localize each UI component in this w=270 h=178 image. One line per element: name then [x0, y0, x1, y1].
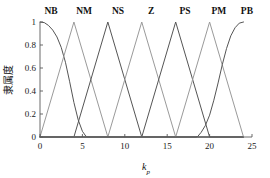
set-label-pb: PB: [241, 6, 254, 16]
fuzzy-set-labels: NBNMNSZPSPMPB: [44, 6, 253, 16]
curves-group: [40, 22, 244, 137]
y-tick-labels: 00.20.40.60.81: [25, 17, 37, 142]
x-tick-labels: 0510152025: [38, 141, 257, 151]
y-axis-title: 隶属度: [2, 65, 14, 95]
set-label-ps: PS: [179, 6, 190, 16]
set-label-ns: NS: [112, 6, 124, 16]
axis-spine: [40, 22, 252, 137]
set-label-nb: NB: [44, 6, 58, 16]
axis-titles: 隶属度kp: [2, 65, 150, 177]
membership-function-figure: 0510152025 00.20.40.60.81 NBNMNSZPSPMPB …: [0, 0, 270, 178]
x-tick-label: 25: [248, 141, 258, 151]
y-tick-label: 0.4: [25, 86, 37, 96]
set-label-z: Z: [148, 6, 154, 16]
y-tick-label: 0.8: [25, 40, 37, 50]
x-axis-title-subscript: p: [145, 168, 150, 176]
y-tick-label: 0.2: [25, 109, 36, 119]
y-tick-label: 0: [32, 132, 37, 142]
mf-curve-pb: [40, 22, 244, 137]
set-label-nm: NM: [76, 6, 92, 16]
mf-curve-z: [40, 22, 244, 137]
axes-group: [40, 22, 252, 137]
x-tick-label: 15: [163, 141, 173, 151]
mf-curve-ns: [40, 22, 244, 137]
y-tick-label: 1: [32, 17, 37, 27]
mf-curve-nb: [40, 22, 244, 137]
set-label-pm: PM: [212, 6, 227, 16]
x-tick-label: 0: [38, 141, 43, 151]
x-tick-label: 20: [205, 141, 215, 151]
mf-curve-ps: [40, 22, 244, 137]
x-axis-title: kp: [142, 161, 150, 176]
x-tick-label: 10: [120, 141, 130, 151]
fuzzy-membership-chart: 0510152025 00.20.40.60.81 NBNMNSZPSPMPB …: [0, 0, 270, 178]
x-tick-label: 5: [80, 141, 85, 151]
mf-curve-pm: [40, 22, 244, 137]
y-tick-label: 0.6: [25, 63, 37, 73]
mf-curve-nm: [40, 22, 244, 137]
